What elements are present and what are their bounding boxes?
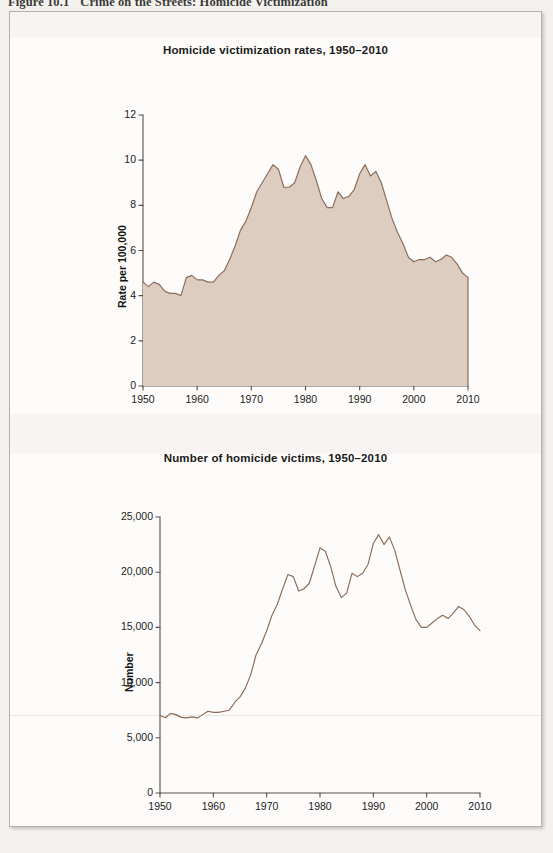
x-tick-label-number: 1970 [242, 800, 292, 812]
x-tick-label-number: 1960 [188, 800, 238, 812]
figure-caption-number: Figure 10.1 [8, 0, 69, 9]
y-tick-label-number: 25,000 [121, 510, 153, 522]
figure-caption-text: Crime on the Streets: Homicide Victimiza… [80, 0, 328, 9]
chart-number: 05,00010,00015,00020,00025,0001950196019… [10, 12, 542, 827]
y-axis-label-number: Number [123, 652, 135, 692]
chart-canvas-number [10, 12, 542, 827]
x-tick-label-number: 2000 [402, 800, 452, 812]
figure-panel: Homicide victimization rates, 1950–2010 … [9, 11, 542, 827]
y-tick-label-number: 20,000 [121, 565, 153, 577]
x-tick-label-number: 1990 [348, 800, 398, 812]
x-tick-label-number: 1950 [135, 800, 185, 812]
x-tick-label-number: 1980 [295, 800, 345, 812]
y-tick-label-number: 15,000 [121, 620, 153, 632]
y-tick-label-number: 0 [147, 786, 153, 798]
y-tick-label-number: 5,000 [127, 731, 153, 743]
x-tick-label-number: 2010 [455, 800, 505, 812]
line-series-number [160, 535, 480, 718]
figure-caption: Figure 10.1Crime on the Streets: Homicid… [8, 0, 553, 9]
